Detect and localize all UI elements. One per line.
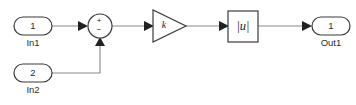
arrow-into-sum-icon [78,21,88,31]
in1-label: In1 [26,37,39,48]
in1-port-number: 1 [30,20,35,31]
block-abs[interactable]: |u| [228,11,258,42]
block-out1[interactable]: 1 [312,17,350,35]
in2-label: In2 [26,84,39,95]
block-gain[interactable]: k [153,10,186,42]
in2-port-number: 2 [30,67,35,78]
block-diagram: 1 In1 2 In2 + − k |u| 1 Out1 [0,0,356,105]
gain-label: k [162,19,167,30]
sum-plus-sign: + [97,16,102,25]
abs-label: |u| [236,19,249,33]
out1-port-number: 1 [328,20,333,31]
block-in2[interactable]: 2 [14,64,52,82]
wire-in2-to-sum [52,44,100,73]
block-in1[interactable]: 1 [14,17,52,35]
block-diagram-canvas: 1 In1 2 In2 + − k |u| 1 Out1 [0,0,356,105]
gain-shape [153,10,186,42]
block-sum[interactable]: + − [88,14,112,38]
arrow-into-out1-icon [302,21,312,31]
out1-label: Out1 [321,37,342,48]
sum-minus-sign: − [97,25,102,34]
